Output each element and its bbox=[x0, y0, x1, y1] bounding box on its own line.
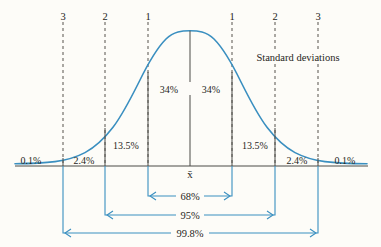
percent-label-0p1-left: 0.1% bbox=[21, 155, 42, 166]
percent-label-34-right: 34% bbox=[202, 84, 220, 95]
span-label-68: 68% bbox=[180, 191, 200, 202]
mean-symbol-label: x̄ bbox=[187, 168, 193, 180]
tick-label-plus2: 2 bbox=[272, 11, 277, 22]
percent-label-13p5-left: 13.5% bbox=[113, 140, 139, 151]
tick-label-plus1: 1 bbox=[229, 11, 234, 22]
region-percent-labels: 34% 34% 13.5% 13.5% 2.4% 2.4% 0.1% 0.1% bbox=[21, 82, 356, 166]
empirical-rule-chart: 3 2 1 1 2 3 Standard deviations bbox=[0, 0, 381, 247]
percent-label-2p4-left: 2.4% bbox=[74, 155, 95, 166]
tick-label-minus3: 3 bbox=[60, 11, 65, 22]
span-label-99p8: 99.8% bbox=[176, 228, 203, 239]
percent-label-2p4-right: 2.4% bbox=[287, 155, 308, 166]
tick-label-minus2: 2 bbox=[102, 11, 107, 22]
percent-label-13p5-right: 13.5% bbox=[242, 140, 268, 151]
percent-label-34-left: 34% bbox=[160, 84, 178, 95]
percent-label-0p1-right: 0.1% bbox=[335, 155, 356, 166]
sd-tick-labels: 3 2 1 1 2 3 bbox=[60, 11, 320, 22]
tick-label-minus1: 1 bbox=[145, 11, 150, 22]
tick-label-plus3: 3 bbox=[315, 11, 320, 22]
axis-caption-group: Standard deviations bbox=[248, 50, 348, 63]
normal-distribution-figure: 3 2 1 1 2 3 Standard deviations bbox=[0, 0, 381, 247]
span-label-95: 95% bbox=[180, 210, 200, 221]
axis-caption-label: Standard deviations bbox=[256, 52, 339, 63]
